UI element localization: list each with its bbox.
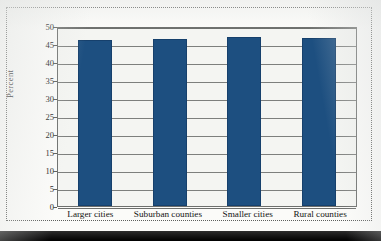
- y-tick-mark: [53, 63, 57, 64]
- y-tick-mark: [53, 135, 57, 136]
- scan-edge-band: [0, 231, 381, 241]
- y-tick-mark: [53, 153, 57, 154]
- y-tick-mark: [53, 207, 57, 208]
- y-tick-label: 10: [12, 167, 54, 176]
- y-tick-mark: [53, 171, 57, 172]
- bar: [78, 40, 112, 206]
- bar-chart: Percent 05101520253035404550 Larger citi…: [0, 0, 381, 241]
- y-tick-mark: [53, 117, 57, 118]
- x-tick-label: Rural counties: [293, 209, 346, 219]
- y-tick-label: 50: [12, 23, 54, 32]
- y-tick-mark: [53, 27, 57, 28]
- bar: [302, 38, 336, 206]
- y-tick-mark: [53, 45, 57, 46]
- y-tick-label: 30: [12, 95, 54, 104]
- y-axis-tick-labels: 05101520253035404550: [10, 27, 54, 207]
- x-tick-label: Larger cities: [67, 209, 113, 219]
- y-tick-label: 25: [12, 113, 54, 122]
- y-tick-mark: [53, 81, 57, 82]
- scanned-chart-page: Percent 05101520253035404550 Larger citi…: [0, 0, 381, 241]
- y-tick-label: 5: [12, 185, 54, 194]
- y-tick-label: 20: [12, 131, 54, 140]
- y-tick-label: 35: [12, 77, 54, 86]
- plot-area: [57, 27, 357, 207]
- y-tick-label: 45: [12, 41, 54, 50]
- y-tick-label: 0: [12, 203, 54, 212]
- x-tick-label: Suburban counties: [134, 209, 202, 219]
- bar: [227, 37, 261, 206]
- y-tick-mark: [53, 99, 57, 100]
- x-tick-label: Smaller cities: [223, 209, 273, 219]
- y-tick-label: 15: [12, 149, 54, 158]
- bar-series: [58, 28, 356, 206]
- y-tick-label: 40: [12, 59, 54, 68]
- bar: [153, 39, 187, 206]
- y-tick-mark: [53, 189, 57, 190]
- x-axis-tick-labels: Larger citiesSuburban countiesSmaller ci…: [57, 209, 357, 219]
